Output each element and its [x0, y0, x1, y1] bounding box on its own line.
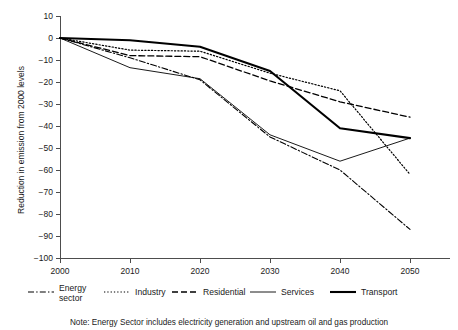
emission-reduction-line-chart: Reduction in emission from 2000 levels 1…	[0, 0, 458, 330]
y-tick-label: −80	[39, 209, 54, 219]
x-tick-label: 2030	[261, 266, 280, 276]
x-tick-label: 2000	[51, 266, 70, 276]
y-tick-label: −40	[39, 121, 54, 131]
y-axis-ticks: 100−10−20−30−40−50−60−70−80−90−100	[34, 11, 60, 263]
y-axis-title: Reduction in emission from 2000 levels	[16, 66, 26, 214]
x-tick-label: 2050	[401, 266, 420, 276]
legend-label[interactable]: Services	[281, 287, 314, 297]
series-line-energy-sector	[60, 38, 410, 229]
y-tick-label: 10	[44, 11, 54, 21]
y-tick-label: −30	[39, 99, 54, 109]
chart-legend: EnergysectorIndustryResidentialServicesT…	[28, 283, 398, 303]
chart-figure: Reduction in emission from 2000 levels 1…	[0, 0, 458, 330]
x-axis-ticks: 200020102020203020402050	[51, 258, 420, 276]
x-tick-label: 2010	[121, 266, 140, 276]
y-tick-label: −50	[39, 143, 54, 153]
legend-label[interactable]: Industry	[135, 287, 166, 297]
series-line-residential	[60, 38, 410, 117]
legend-label-line2[interactable]: sector	[59, 293, 83, 303]
data-series-group	[60, 38, 410, 229]
y-tick-label: −100	[34, 253, 53, 263]
chart-note: Note: Energy Sector includes electricity…	[70, 318, 389, 327]
y-tick-label: −60	[39, 165, 54, 175]
y-tick-label: −20	[39, 77, 54, 87]
series-line-transport	[60, 38, 410, 138]
legend-label[interactable]: Transport	[361, 287, 398, 297]
y-tick-label: −70	[39, 187, 54, 197]
y-tick-label: −90	[39, 231, 54, 241]
series-line-services	[60, 38, 410, 161]
y-tick-label: −10	[39, 55, 54, 65]
y-tick-label: 0	[48, 33, 53, 43]
legend-label[interactable]: Residential	[203, 287, 246, 297]
x-tick-label: 2020	[191, 266, 210, 276]
legend-label[interactable]: Energy	[59, 283, 87, 293]
x-tick-label: 2040	[331, 266, 350, 276]
